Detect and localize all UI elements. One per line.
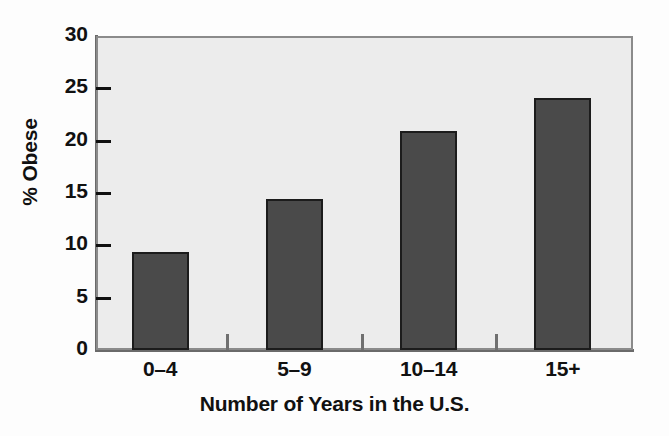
y-axis-tick-mark bbox=[96, 192, 111, 195]
y-axis-tick-label: 30 bbox=[44, 22, 88, 46]
y-axis-tick-mark bbox=[96, 244, 111, 247]
y-axis-tick-mark bbox=[96, 140, 111, 143]
x-axis-tick-mark bbox=[226, 334, 229, 350]
x-axis-tick-mark bbox=[495, 334, 498, 350]
x-axis-title: Number of Years in the U.S. bbox=[0, 392, 669, 416]
x-axis-tick-label: 15+ bbox=[503, 357, 623, 381]
bar bbox=[400, 131, 457, 350]
x-axis-tick-label: 5–9 bbox=[234, 357, 354, 381]
y-axis-tick-label: 15 bbox=[44, 179, 88, 203]
y-axis-tick-label: 25 bbox=[44, 74, 88, 98]
chart-page: 302520151050 0–45–910–1415+ Number of Ye… bbox=[0, 0, 669, 436]
y-axis-title: % Obese bbox=[18, 92, 42, 232]
y-axis-tick-label: 10 bbox=[44, 231, 88, 255]
bar bbox=[266, 199, 323, 350]
y-axis-tick-mark bbox=[96, 297, 111, 300]
x-axis-tick-label: 0–4 bbox=[100, 357, 220, 381]
y-axis-tick-label: 5 bbox=[44, 284, 88, 308]
y-axis-tick-label: 20 bbox=[44, 127, 88, 151]
y-axis-tick-label: 0 bbox=[44, 336, 88, 360]
x-axis-tick-label: 10–14 bbox=[369, 357, 489, 381]
y-axis-tick-mark bbox=[96, 87, 111, 90]
bar bbox=[132, 252, 189, 350]
x-axis-tick-mark bbox=[361, 334, 364, 350]
bar bbox=[534, 98, 591, 350]
